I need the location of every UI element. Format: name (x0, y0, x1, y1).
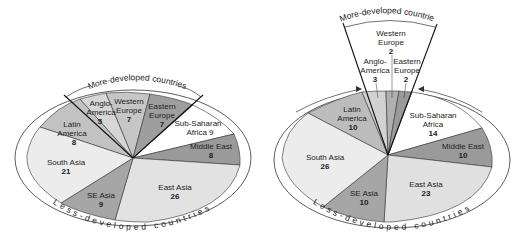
right-label-western: Western (376, 29, 406, 38)
left-more-developed-label: More-developed countries (86, 72, 188, 91)
right-label-latin: Latin (343, 105, 360, 114)
left-label-subsaharan-2: Africa 9 (186, 128, 214, 137)
left-label-eastasia: East Asia (158, 183, 192, 192)
left-value-eastasia: 26 (171, 192, 180, 201)
right-value-seasia: 10 (360, 198, 369, 207)
right-label-eastern-2: Europe (394, 66, 420, 75)
right-value-southasia: 26 (321, 162, 330, 171)
left-value-mideast: 8 (209, 151, 214, 160)
left-value-western: 7 (127, 115, 132, 124)
right-value-western: 2 (389, 47, 394, 56)
right-value-eastasia: 23 (422, 189, 431, 198)
right-more-developed-label: More-developed countries (0, 0, 436, 24)
left-pie-chart: More-developed countries Less-developed … (15, 72, 251, 232)
left-label-western-2: Europe (116, 106, 142, 115)
right-label-subsaharan: Sub-Saharan (409, 111, 456, 120)
left-value-seasia: 9 (99, 200, 104, 209)
right-label-seasia: SE Asia (350, 189, 379, 198)
right-label-eastasia: East Asia (409, 180, 443, 189)
left-label-latin-2: America (57, 129, 87, 138)
right-label-mideast: Middle East (442, 142, 485, 151)
left-value-southasia: 21 (62, 167, 71, 176)
left-value-anglo: 5 (98, 117, 103, 126)
left-top-arrow-arc-right (178, 86, 201, 97)
left-label-mideast: Middle East (190, 142, 233, 151)
right-value-mideast: 10 (459, 151, 468, 160)
left-value-latin: 8 (72, 138, 77, 147)
right-label-southasia: South Asia (306, 153, 345, 162)
right-label-anglo-2: America (360, 66, 390, 75)
left-label-eastern-2: Europe (149, 111, 175, 120)
right-label-anglo: Anglo- (363, 57, 386, 66)
right-top-arc (345, 21, 435, 28)
left-label-western: Western (114, 97, 144, 106)
right-value-anglo: 3 (373, 75, 378, 84)
left-label-southasia: South Asia (47, 158, 86, 167)
right-value-eastern: 2 (404, 75, 409, 84)
left-label-eastern: Eastern (148, 102, 176, 111)
right-label-latin-2: America (337, 114, 367, 123)
left-label-anglo-2: America (86, 108, 116, 117)
right-label-eastern: Eastern (393, 57, 421, 66)
left-value-eastern: 7 (160, 120, 165, 129)
left-label-anglo: Anglo- (89, 99, 112, 108)
right-label-western-2: Europe (378, 38, 404, 47)
left-label-subsaharan: Sub-Saharan (174, 119, 221, 128)
figure-canvas: More-developed countries Less-developed … (0, 0, 521, 251)
left-label-latin: Latin (63, 120, 80, 129)
right-label-subsaharan-2: Africa (423, 120, 444, 129)
left-label-seasia: SE Asia (87, 191, 116, 200)
right-value-latin: 10 (349, 123, 358, 132)
right-value-subsaharan: 14 (429, 129, 438, 138)
